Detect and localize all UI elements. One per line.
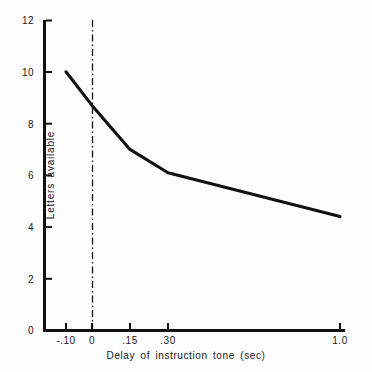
x-tick-label-030: .30 bbox=[160, 335, 175, 346]
x-tick-label-neg-010: -.10 bbox=[56, 335, 75, 346]
chart-plot-area bbox=[0, 0, 372, 372]
y-tick-label-8: 8 bbox=[8, 118, 34, 129]
x-tick-label-0: 0 bbox=[89, 335, 95, 346]
y-tick-label-4: 4 bbox=[8, 222, 34, 233]
x-axis-ticks bbox=[66, 323, 340, 329]
y-axis-title: Letters available bbox=[45, 131, 56, 219]
y-tick-label-6: 6 bbox=[8, 170, 34, 181]
x-tick-label-015: .15 bbox=[122, 335, 137, 346]
chart-figure: 12 10 8 6 4 2 0 -.10 0 .15 .30 1.0 Delay… bbox=[0, 0, 372, 372]
x-tick-label-10: 1.0 bbox=[332, 335, 347, 346]
y-tick-label-12: 12 bbox=[8, 15, 34, 26]
y-tick-label-0: 0 bbox=[8, 325, 34, 336]
y-tick-label-2: 2 bbox=[8, 273, 34, 284]
x-axis-title: Delay of instruction tone (sec) bbox=[107, 350, 266, 361]
y-tick-label-10: 10 bbox=[8, 66, 34, 77]
data-series-line bbox=[66, 72, 340, 217]
